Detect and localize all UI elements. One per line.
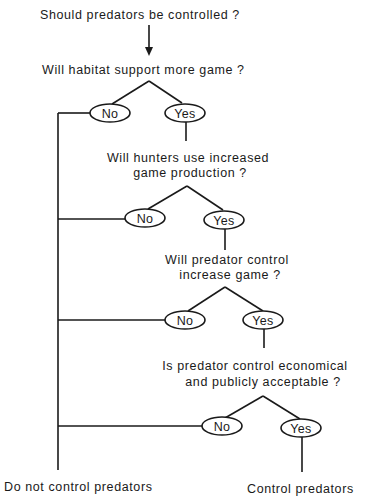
yes-label-3: Yes: [252, 314, 273, 328]
no-node-4: No: [202, 417, 242, 435]
outcome-control: Control predators: [247, 482, 354, 496]
yes-label-2: Yes: [213, 214, 234, 228]
branch-4: [225, 396, 300, 419]
question-1-line-1: Will habitat support more game ?: [42, 63, 245, 77]
no-label-3: No: [177, 314, 194, 328]
no-node-1: No: [90, 104, 130, 122]
down-arrow-icon: [145, 25, 153, 56]
question-4-line-1: Is predator control economical: [162, 359, 347, 373]
question-2-line-1: Will hunters use increased: [107, 151, 269, 165]
yes-node-2: Yes: [204, 211, 244, 229]
no-label-4: No: [214, 420, 231, 434]
yes-node-4: Yes: [281, 419, 321, 437]
outcome-do-not-control: Do not control predators: [4, 480, 153, 494]
no-node-2: No: [125, 209, 165, 227]
yes-node-3: Yes: [243, 311, 283, 329]
root-question: Should predators be controlled ?: [40, 8, 240, 22]
no-node-3: No: [165, 311, 205, 329]
yes-label-4: Yes: [290, 422, 311, 436]
yes-label-1: Yes: [174, 107, 195, 121]
decision-tree-diagram: Should predators be controlled ? Will ha…: [0, 0, 368, 501]
branch-3: [188, 287, 263, 311]
branch-2: [148, 186, 223, 210]
no-label-1: No: [102, 107, 119, 121]
question-3-line-2: increase game ?: [179, 268, 280, 282]
yes-node-1: Yes: [165, 104, 205, 122]
question-2-line-2: game production ?: [133, 166, 247, 180]
question-3-line-1: Will predator control: [165, 253, 289, 267]
no-label-2: No: [137, 212, 154, 226]
question-4-line-2: and publicly acceptable ?: [185, 375, 340, 389]
branch-1: [112, 81, 182, 104]
